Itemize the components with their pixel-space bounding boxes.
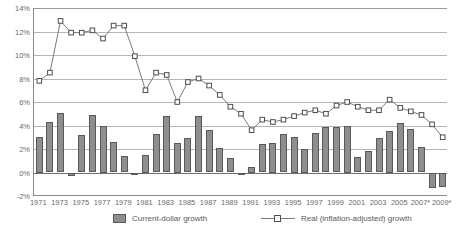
line-series bbox=[34, 8, 448, 196]
line-marker-1980 bbox=[133, 54, 138, 59]
line-marker-1989 bbox=[228, 104, 233, 109]
real-growth-markers bbox=[37, 19, 445, 140]
y-tick-label: 6% bbox=[19, 98, 30, 107]
x-tick-label: 2009* bbox=[432, 198, 452, 207]
line-marker-2001 bbox=[355, 104, 360, 109]
line-marker-1977 bbox=[101, 36, 106, 41]
plot-area bbox=[33, 8, 447, 196]
chart-container: 14%12%10%8%6%4%2%0%-2% 19711973197519771… bbox=[0, 0, 458, 240]
y-axis-labels: 14%12%10%8%6%4%2%0%-2% bbox=[0, 0, 33, 196]
line-marker-2002 bbox=[366, 108, 371, 113]
line-marker-1976 bbox=[90, 28, 95, 33]
x-tick-label: 1971 bbox=[30, 198, 47, 207]
line-marker-2006 bbox=[409, 109, 414, 114]
line-marker-1993 bbox=[271, 120, 276, 125]
line-marker-1998 bbox=[324, 111, 329, 116]
x-tick-label: 1981 bbox=[136, 198, 153, 207]
x-tick-label: 1989 bbox=[221, 198, 238, 207]
legend-item-current-dollar: Current-dollar growth bbox=[113, 214, 207, 223]
x-tick-label: 1995 bbox=[285, 198, 302, 207]
line-marker-1979 bbox=[122, 23, 127, 28]
line-marker-1987 bbox=[207, 83, 212, 88]
x-tick-label: 1977 bbox=[94, 198, 111, 207]
x-tick-label: 1991 bbox=[242, 198, 259, 207]
x-tick-label: 1997 bbox=[306, 198, 323, 207]
line-marker-2009* bbox=[440, 135, 445, 140]
y-tick-label: 14% bbox=[15, 4, 30, 13]
line-marker-1975 bbox=[79, 30, 84, 35]
legend-line-marker-icon bbox=[261, 214, 295, 223]
line-marker-1974 bbox=[69, 30, 74, 35]
x-tick-label: 1993 bbox=[264, 198, 281, 207]
x-tick-label: 2003 bbox=[370, 198, 387, 207]
x-tick-label: 1987 bbox=[200, 198, 217, 207]
line-marker-1991 bbox=[249, 128, 254, 133]
line-marker-1984 bbox=[175, 100, 180, 105]
line-marker-1988 bbox=[217, 93, 222, 98]
line-marker-2008* bbox=[430, 122, 435, 127]
line-marker-1990 bbox=[239, 111, 244, 116]
line-marker-1995 bbox=[292, 114, 297, 119]
line-marker-1983 bbox=[164, 73, 169, 78]
legend-item-real-growth: Real (inflation-adjusted) growth bbox=[261, 214, 412, 223]
y-tick-label: 10% bbox=[15, 51, 30, 60]
y-tick-label: 12% bbox=[15, 27, 30, 36]
line-marker-1994 bbox=[281, 117, 286, 122]
line-marker-1971 bbox=[37, 79, 42, 84]
line-marker-1973 bbox=[58, 19, 63, 24]
x-tick-label: 2007* bbox=[411, 198, 431, 207]
x-tick-label: 1975 bbox=[72, 198, 89, 207]
line-marker-1985 bbox=[186, 80, 191, 85]
chart-legend: Current-dollar growth Real (inflation-ad… bbox=[33, 214, 447, 234]
y-tick-label: 0% bbox=[19, 168, 30, 177]
y-tick-label: 4% bbox=[19, 121, 30, 130]
x-tick-label: 1979 bbox=[115, 198, 132, 207]
x-axis-labels: 1971197319751977197919811983198519871989… bbox=[33, 198, 447, 210]
line-marker-1996 bbox=[302, 110, 307, 115]
line-marker-2005 bbox=[398, 106, 403, 111]
line-marker-1986 bbox=[196, 76, 201, 81]
y-tick-label: -2% bbox=[17, 192, 30, 201]
line-marker-2003 bbox=[377, 108, 382, 113]
legend-label-current-dollar: Current-dollar growth bbox=[132, 214, 207, 223]
x-tick-label: 1983 bbox=[157, 198, 174, 207]
x-tick-label: 1973 bbox=[51, 198, 68, 207]
x-tick-label: 2005 bbox=[391, 198, 408, 207]
x-tick-label: 1999 bbox=[327, 198, 344, 207]
line-marker-2004 bbox=[387, 97, 392, 102]
y-tick-label: 8% bbox=[19, 74, 30, 83]
line-marker-2000 bbox=[345, 100, 350, 105]
x-tick-label: 1985 bbox=[179, 198, 196, 207]
x-tick-label: 2001 bbox=[348, 198, 365, 207]
line-marker-1972 bbox=[48, 70, 53, 75]
line-marker-1978 bbox=[111, 23, 116, 28]
line-marker-1999 bbox=[334, 103, 339, 108]
y-tick-label: 2% bbox=[19, 145, 30, 154]
line-marker-1997 bbox=[313, 108, 318, 113]
line-marker-2007* bbox=[419, 113, 424, 118]
line-marker-1981 bbox=[143, 88, 148, 93]
legend-label-real-growth: Real (inflation-adjusted) growth bbox=[301, 214, 412, 223]
real-growth-line bbox=[39, 21, 442, 137]
line-marker-1982 bbox=[154, 70, 159, 75]
line-marker-1992 bbox=[260, 117, 265, 122]
legend-swatch-icon bbox=[113, 214, 126, 223]
